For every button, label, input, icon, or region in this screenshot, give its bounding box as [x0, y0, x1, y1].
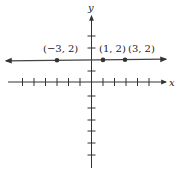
coordinate-graph: x y (−3, 2) (1, 2) (3, 2) — [0, 0, 182, 176]
label-point-neg3-2: (−3, 2) — [43, 43, 78, 54]
point-neg3-2 — [55, 58, 60, 63]
y-axis-label: y — [87, 2, 94, 13]
x-axis-label: x — [169, 77, 175, 88]
point-3-2 — [123, 57, 128, 62]
label-point-3-2: (3, 2) — [128, 43, 155, 54]
y-axis: y — [87, 2, 96, 168]
label-point-1-2: (1, 2) — [99, 43, 126, 54]
point-1-2 — [101, 58, 106, 63]
line-y-equals-2 — [6, 59, 166, 61]
